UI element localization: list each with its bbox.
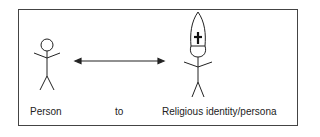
label-religious-identity: Religious identity/persona	[162, 106, 277, 117]
person-figure-icon	[34, 39, 60, 90]
label-to: to	[115, 106, 123, 117]
label-person: Person	[30, 106, 62, 117]
double-arrow-icon	[75, 59, 164, 64]
religious-figure-icon	[184, 12, 212, 97]
cross-icon	[194, 32, 202, 44]
